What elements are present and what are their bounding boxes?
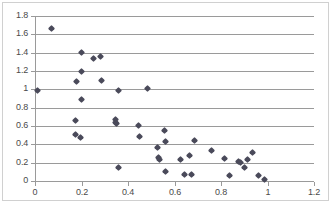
data-point xyxy=(244,156,251,163)
data-point xyxy=(115,87,122,94)
scatter-chart: 00.20.40.60.811.21.41.61.8 00.20.40.60.8… xyxy=(0,0,333,215)
data-point xyxy=(48,25,55,32)
data-point xyxy=(90,55,97,62)
data-point xyxy=(186,152,193,159)
data-point xyxy=(160,127,167,134)
data-point xyxy=(78,96,85,103)
x-axis-tick-label: 0.2 xyxy=(67,188,97,197)
chart-frame: 00.20.40.60.811.21.41.61.8 00.20.40.60.8… xyxy=(2,2,329,201)
x-axis-tick-label: 0.8 xyxy=(206,188,236,197)
y-axis-tick-label: 1.8 xyxy=(3,11,28,20)
x-axis-tick-label: 1.2 xyxy=(299,188,329,197)
data-point xyxy=(241,164,248,171)
y-axis-tick-label: 0.4 xyxy=(3,139,28,148)
y-axis-tick-label: 0.2 xyxy=(3,158,28,167)
y-axis-tick-label: 0 xyxy=(3,176,28,185)
data-point xyxy=(260,176,267,183)
data-point xyxy=(162,168,169,175)
y-axis-tick-label: 1.4 xyxy=(3,48,28,57)
data-point xyxy=(115,164,122,171)
data-point xyxy=(162,138,169,145)
data-point xyxy=(154,144,161,151)
x-axis-tick xyxy=(35,182,36,186)
data-point xyxy=(78,67,85,74)
data-point xyxy=(78,49,85,56)
data-point xyxy=(191,137,198,144)
x-axis-tick-label: 0 xyxy=(20,188,50,197)
x-axis-tick xyxy=(128,182,129,186)
x-axis-tick-label: 1 xyxy=(253,188,283,197)
data-point xyxy=(34,87,41,94)
y-axis-tick-label: 1 xyxy=(3,84,28,93)
x-axis-tick xyxy=(314,182,315,186)
y-axis-tick-label: 1.2 xyxy=(3,66,28,75)
y-axis-tick-label: 0.8 xyxy=(3,103,28,112)
data-point xyxy=(144,85,151,92)
x-axis-tick xyxy=(221,182,222,186)
data-point xyxy=(188,171,195,178)
y-axis-tick-label: 0.6 xyxy=(3,121,28,130)
data-point xyxy=(226,172,233,179)
data-point xyxy=(97,53,104,60)
data-point xyxy=(221,155,228,162)
data-point xyxy=(136,133,143,140)
data-point xyxy=(249,149,256,156)
data-point xyxy=(73,78,80,85)
x-axis-tick xyxy=(82,182,83,186)
data-point xyxy=(208,147,215,154)
x-axis-tick xyxy=(175,182,176,186)
data-point xyxy=(72,116,79,123)
data-point xyxy=(113,120,120,127)
x-axis-tick xyxy=(268,182,269,186)
y-axis-tick-label: 1.6 xyxy=(3,29,28,38)
x-axis-tick-label: 0.6 xyxy=(160,188,190,197)
data-point xyxy=(177,156,184,163)
data-point xyxy=(98,77,105,84)
data-point xyxy=(135,122,142,129)
data-point xyxy=(77,134,84,141)
x-axis-tick-label: 0.4 xyxy=(113,188,143,197)
plot-area xyxy=(35,16,314,181)
